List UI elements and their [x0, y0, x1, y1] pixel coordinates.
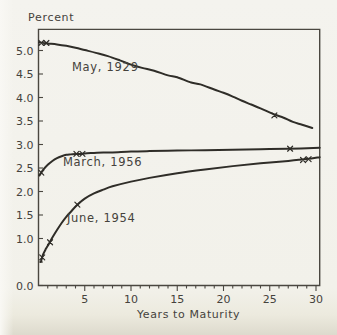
y-tick-label: 1.0 [16, 233, 34, 246]
y-tick-label: 3.0 [16, 139, 34, 152]
series-label-march-1956: March, 1956 [63, 155, 142, 169]
x-tick-label: 30 [309, 293, 323, 306]
y-tick-label: 5.0 [16, 45, 34, 58]
x-tick-label: 20 [217, 293, 231, 306]
x-tick-label: 10 [124, 293, 138, 306]
data-point-x-marker-june-1954 [75, 202, 80, 207]
y-tick-label: 4.5 [16, 68, 34, 81]
y-tick-label: 0.0 [16, 280, 34, 293]
series-label-june-1954: June, 1954 [67, 211, 136, 225]
y-tick-label: 2.5 [16, 162, 34, 175]
x-tick-label: 5 [81, 293, 88, 306]
yield-curve-chart: 0.01.01.52.02.53.03.54.04.55.05101520253… [0, 0, 337, 335]
y-tick-label: 3.5 [16, 115, 34, 128]
scanned-yield-curve-figure: 0.01.01.52.02.53.03.54.04.55.05101520253… [0, 0, 337, 335]
y-tick-label: 2.0 [16, 186, 34, 199]
y-axis-title: Percent [28, 11, 74, 24]
y-tick-label: 4.0 [16, 92, 34, 105]
x-axis-title: Years to Maturity [137, 308, 240, 321]
x-tick-label: 15 [170, 293, 184, 306]
curve-may-1929 [39, 43, 312, 129]
curve-june-1954 [41, 157, 320, 262]
y-tick-label: 1.5 [16, 209, 34, 222]
series-label-may-1929: May, 1929 [72, 60, 139, 74]
x-tick-label: 25 [263, 293, 277, 306]
